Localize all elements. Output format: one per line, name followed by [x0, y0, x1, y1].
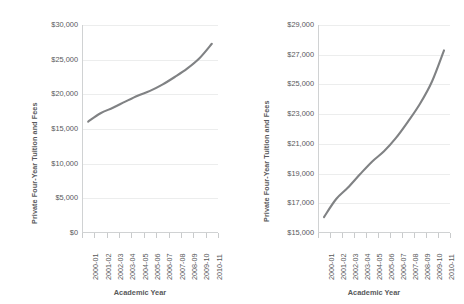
x-tick-label: 2007-08: [411, 254, 420, 280]
y-tick-label: $25,000: [287, 80, 314, 88]
x-tick: [378, 233, 379, 238]
x-tick: [390, 233, 391, 238]
y-axis-tick-labels: $0$5,000$10,000$15,000$20,000$25,000$30,…: [0, 25, 78, 233]
plot-area: [82, 25, 218, 233]
x-axis-ticks: [318, 233, 450, 238]
x-tick-label: 2010-11: [215, 254, 224, 280]
x-tick-label: 2004-05: [375, 254, 384, 280]
x-tick: [354, 233, 355, 238]
x-tick: [330, 233, 331, 238]
x-tick-label: 2009-10: [435, 254, 444, 280]
x-tick-label: 2005-06: [153, 254, 162, 280]
y-tick-label: $20,000: [51, 90, 78, 98]
x-axis-title: Academic Year: [60, 288, 220, 297]
x-tick: [107, 233, 108, 238]
x-tick: [144, 233, 145, 238]
x-tick-label: 2009-10: [202, 254, 211, 280]
x-tick: [438, 233, 439, 238]
x-tick: [131, 233, 132, 238]
x-tick: [193, 233, 194, 238]
x-tick: [206, 233, 207, 238]
x-axis-tick-labels: 2000-012001-022002-032003-042004-052005-…: [82, 240, 218, 286]
x-tick-label: 2008-09: [423, 254, 432, 280]
x-tick: [119, 233, 120, 238]
y-tick-label: $19,000: [287, 170, 314, 178]
y-tick-label: $5,000: [55, 194, 78, 202]
x-tick: [156, 233, 157, 238]
x-tick-label: 2005-06: [387, 254, 396, 280]
x-axis-ticks: [82, 233, 218, 238]
x-tick-label: 2004-05: [141, 254, 150, 280]
x-tick-label: 2003-04: [363, 254, 372, 280]
x-tick: [450, 233, 451, 238]
x-tick: [414, 233, 415, 238]
y-tick-label: $30,000: [51, 21, 78, 29]
x-tick-label: 2010-11: [447, 254, 456, 280]
x-tick: [94, 233, 95, 238]
x-tick-label: 2001-02: [104, 254, 113, 280]
y-tick-label: $10,000: [51, 160, 78, 168]
x-tick-label: 2002-03: [116, 254, 125, 280]
x-tick: [402, 233, 403, 238]
x-axis-title: Academic Year: [294, 288, 454, 297]
x-tick-label: 2001-02: [339, 254, 348, 280]
chart-pair-figure: Private Four-Year Tuition and Fees $0$5,…: [0, 0, 464, 304]
x-tick-label: 2002-03: [351, 254, 360, 280]
x-tick-label: 2008-09: [190, 254, 199, 280]
x-tick-label: 2006-07: [399, 254, 408, 280]
x-tick: [82, 233, 83, 238]
x-tick: [169, 233, 170, 238]
plot-area: [318, 25, 450, 233]
y-tick-label: $0: [70, 229, 78, 237]
x-tick: [181, 233, 182, 238]
y-tick-label: $23,000: [287, 110, 314, 118]
x-tick: [342, 233, 343, 238]
y-tick-label: $21,000: [287, 140, 314, 148]
x-tick-label: 2000-01: [91, 254, 100, 280]
x-tick: [426, 233, 427, 238]
tuition-line-series: [82, 25, 218, 233]
tuition-line-series: [318, 25, 450, 233]
chart-panel-right: Private Four-Year Tuition and Fees $15,0…: [232, 0, 464, 304]
x-axis-tick-labels: 2000-012001-022002-032003-042004-052005-…: [318, 240, 450, 286]
y-tick-label: $27,000: [287, 51, 314, 59]
y-tick-label: $15,000: [51, 125, 78, 133]
x-tick-label: 2003-04: [128, 254, 137, 280]
y-axis-tick-labels: $15,000$17,000$19,000$21,000$23,000$25,0…: [232, 25, 314, 233]
x-tick-label: 2007-08: [178, 254, 187, 280]
y-tick-label: $25,000: [51, 56, 78, 64]
x-tick: [318, 233, 319, 238]
x-tick: [366, 233, 367, 238]
x-tick-label: 2000-01: [327, 254, 336, 280]
y-tick-label: $29,000: [287, 21, 314, 29]
y-tick-label: $15,000: [287, 229, 314, 237]
x-tick-label: 2006-07: [165, 254, 174, 280]
x-tick: [218, 233, 219, 238]
y-tick-label: $17,000: [287, 199, 314, 207]
chart-panel-left: Private Four-Year Tuition and Fees $0$5,…: [0, 0, 232, 304]
